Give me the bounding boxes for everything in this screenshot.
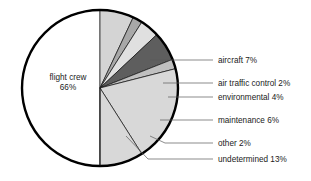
pie-chart-figure: aircraft 7% air traffic control 2% envir… (0, 0, 311, 181)
callout-label-aircraft: aircraft 7% (218, 56, 257, 65)
callout-label-maintenance: maintenance 6% (218, 116, 279, 125)
pie-chart-svg: aircraft 7% air traffic control 2% envir… (0, 0, 311, 181)
inner-label-flight-crew-name: flight crew (50, 73, 87, 82)
callout-label-other: other 2% (218, 139, 251, 148)
callout-label-air-traffic-control: air traffic control 2% (218, 79, 290, 88)
inner-label-flight-crew-value: 66% (60, 83, 76, 92)
callout-label-environmental: environmental 4% (218, 93, 284, 102)
callout-label-undetermined: undetermined 13% (218, 155, 287, 164)
